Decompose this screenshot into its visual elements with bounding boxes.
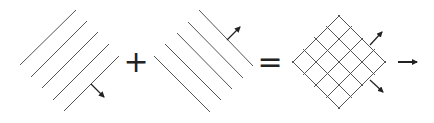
superposition-diagram bbox=[0, 0, 434, 123]
grid-arrow-up bbox=[370, 32, 382, 45]
superposition-grid bbox=[292, 15, 386, 109]
equals-sign: = bbox=[257, 47, 282, 77]
propagation-arrow-2 bbox=[227, 27, 240, 40]
plus-sign: + bbox=[123, 47, 148, 77]
propagation-arrow-1 bbox=[91, 84, 104, 97]
wave-set-1 bbox=[20, 10, 119, 111]
grid-arrow-down bbox=[370, 80, 383, 92]
wave-set-2 bbox=[154, 10, 253, 112]
